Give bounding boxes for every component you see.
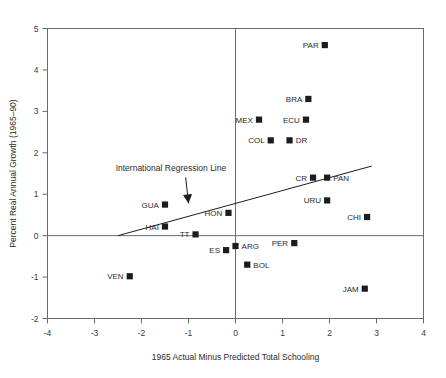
- y-axis-ticks: -2-1012345: [31, 24, 48, 324]
- data-point-marker: [303, 117, 309, 123]
- chart-canvas: -4-3-2-101234 -2-1012345 PARBRAMEXECUCOL…: [0, 0, 446, 378]
- data-point-label: PAR: [303, 41, 319, 50]
- data-point-label: TT: [180, 230, 190, 239]
- zero-reference-lines: [48, 29, 424, 319]
- y-axis-title: Percent Real Annual Growth (1965–90): [8, 99, 18, 248]
- y-tick-label: 3: [34, 106, 39, 116]
- data-point-marker: [162, 223, 168, 229]
- data-point-label: CR: [295, 174, 307, 183]
- data-point: CR: [295, 174, 316, 183]
- annotation-arrow-head: [183, 194, 192, 203]
- data-point-label: VEN: [107, 272, 124, 281]
- data-point-marker: [127, 273, 133, 279]
- x-tick-label: -4: [44, 328, 52, 338]
- data-point-marker: [232, 243, 238, 249]
- data-point: TT: [180, 230, 199, 239]
- data-point-marker: [362, 286, 368, 292]
- data-point: COL: [248, 136, 274, 145]
- data-point-marker: [324, 175, 330, 181]
- data-point: ARG: [232, 242, 259, 251]
- x-tick-label: 4: [421, 328, 426, 338]
- scatter-plot-figure: -4-3-2-101234 -2-1012345 PARBRAMEXECUCOL…: [0, 0, 446, 378]
- data-point-marker: [223, 247, 229, 253]
- data-point: JAM: [343, 285, 368, 294]
- x-tick-label: 3: [374, 328, 379, 338]
- y-tick-label: 2: [34, 148, 39, 158]
- data-point-label: ES: [209, 246, 220, 255]
- data-point: BOL: [244, 261, 270, 270]
- y-tick-label: 4: [34, 65, 39, 75]
- data-point: ECU: [283, 116, 309, 125]
- data-point-marker: [291, 240, 297, 246]
- data-point-marker: [244, 262, 250, 268]
- data-point-marker: [324, 197, 330, 203]
- data-point: VEN: [107, 272, 133, 281]
- y-tick-label: -2: [31, 314, 39, 324]
- data-point-label: PER: [272, 239, 289, 248]
- data-point-label: HAI: [146, 223, 159, 232]
- y-tick-label: -1: [31, 272, 39, 282]
- x-tick-label: 0: [233, 328, 238, 338]
- x-tick-label: -1: [185, 328, 193, 338]
- data-point: DR: [286, 136, 307, 145]
- annotation-label: International Regression Line: [116, 163, 227, 173]
- data-point-label: PAN: [333, 174, 349, 183]
- data-point: PAN: [324, 174, 349, 183]
- y-tick-label: 0: [34, 231, 39, 241]
- data-point-marker: [310, 175, 316, 181]
- data-point-marker: [256, 117, 262, 123]
- data-point-marker: [322, 42, 328, 48]
- data-point: CHI: [347, 213, 370, 222]
- data-point: MEX: [236, 116, 263, 125]
- data-point-label: COL: [248, 136, 265, 145]
- data-point-label: DR: [296, 136, 308, 145]
- data-point-label: CHI: [347, 213, 361, 222]
- x-tick-label: 2: [327, 328, 332, 338]
- data-point-marker: [286, 137, 292, 143]
- x-axis-ticks: -4-3-2-101234: [44, 319, 426, 338]
- data-point-marker: [225, 210, 231, 216]
- data-point-label: MEX: [236, 116, 254, 125]
- data-point-marker: [192, 231, 198, 237]
- x-axis-title: 1965 Actual Minus Predicted Total School…: [152, 352, 320, 362]
- data-point: HAI: [146, 223, 169, 232]
- y-tick-label: 5: [34, 24, 39, 34]
- data-point-marker: [268, 137, 274, 143]
- data-point-marker: [364, 214, 370, 220]
- data-point: ES: [209, 246, 229, 255]
- data-point-label: ARG: [242, 242, 259, 251]
- data-point-label: URU: [304, 196, 322, 205]
- x-tick-label: -3: [91, 328, 99, 338]
- data-point-marker: [305, 96, 311, 102]
- x-tick-label: -2: [138, 328, 146, 338]
- data-point-label: BOL: [253, 261, 270, 270]
- x-tick-label: 1: [280, 328, 285, 338]
- data-point: PER: [272, 239, 298, 248]
- data-point-label: JAM: [343, 285, 359, 294]
- data-point-label: ECU: [283, 116, 300, 125]
- data-point: BRA: [286, 95, 312, 104]
- data-point: URU: [304, 196, 331, 205]
- data-point: HON: [205, 209, 232, 218]
- regression-line-annotation: International Regression Line: [116, 163, 227, 203]
- data-point-label: BRA: [286, 95, 303, 104]
- data-point: GUA: [142, 201, 169, 210]
- data-point-label: HON: [205, 209, 223, 218]
- data-point-marker: [162, 201, 168, 207]
- data-point-label: GUA: [142, 201, 160, 210]
- y-tick-label: 1: [34, 189, 39, 199]
- data-point: PAR: [303, 41, 328, 50]
